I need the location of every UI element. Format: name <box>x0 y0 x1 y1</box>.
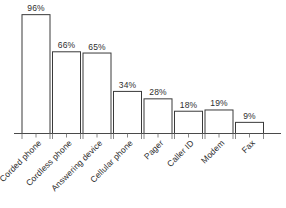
bar <box>205 110 233 134</box>
bar-value-label: 96% <box>27 3 45 13</box>
bar <box>144 99 172 134</box>
bar-value-label: 65% <box>88 42 106 52</box>
bar-value-label: 66% <box>58 40 76 50</box>
bar <box>53 52 81 134</box>
bar-chart: 96%66%65%34%28%18%19%9% Corded phoneCord… <box>0 0 286 208</box>
bar-value-label: 28% <box>149 87 167 97</box>
bar-value-label: 18% <box>180 100 198 110</box>
bar-value-label: 34% <box>119 80 137 90</box>
bar <box>83 53 111 133</box>
bar-value-label: 9% <box>243 111 256 121</box>
bar-value-label: 19% <box>210 98 228 108</box>
bar <box>175 111 203 133</box>
bar <box>22 15 50 134</box>
bar <box>114 91 142 133</box>
bar <box>236 122 264 133</box>
